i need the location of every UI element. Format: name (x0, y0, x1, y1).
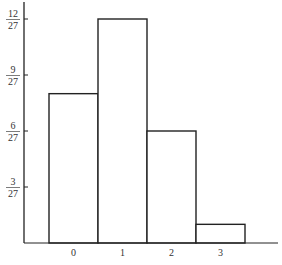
y-tick-numerator: 9 (11, 64, 16, 75)
x-tick-label: 3 (218, 247, 223, 258)
bar-1 (98, 19, 147, 243)
y-tick-numerator: 3 (11, 176, 16, 187)
bar-3 (196, 224, 245, 243)
histogram-chart: 3276279271227 0123 (0, 0, 282, 265)
bar-0 (49, 94, 98, 243)
x-tick-label: 1 (120, 247, 125, 258)
y-tick-denominator: 27 (8, 76, 18, 87)
y-tick-numerator: 12 (8, 8, 18, 19)
y-tick-denominator: 27 (8, 132, 18, 143)
bars-group (49, 19, 245, 243)
y-tick-numerator: 6 (11, 120, 16, 131)
y-tick-denominator: 27 (8, 188, 18, 199)
x-tick-label: 2 (169, 247, 174, 258)
bar-2 (147, 131, 196, 243)
x-ticks-group: 0123 (71, 247, 223, 258)
y-ticks-group: 3276279271227 (6, 8, 28, 199)
y-tick-denominator: 27 (8, 20, 18, 31)
x-tick-label: 0 (71, 247, 76, 258)
